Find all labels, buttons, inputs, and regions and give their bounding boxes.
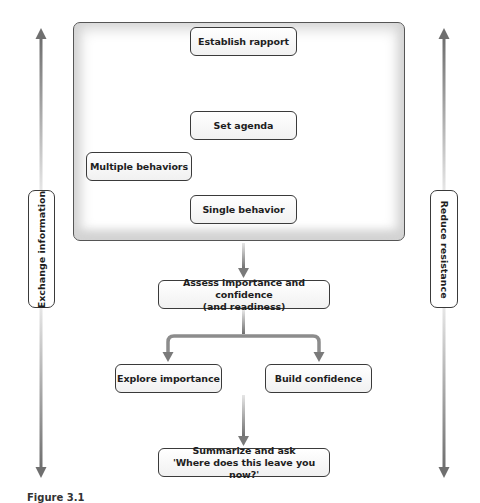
node-label-line2: (and readiness) [203,301,286,313]
node-establish-rapport: Establish rapport [190,27,297,56]
node-set-agenda: Set agenda [190,111,297,140]
node-assess-importance-confidence: Assess importance and confidence (and re… [158,280,330,309]
node-label: Establish rapport [198,36,289,48]
node-label: Build confidence [275,373,362,385]
reduce-resistance-label: Reduce resistance [430,190,458,308]
arrow-fork-icon [163,310,325,362]
exchange-information-text: Exchange information [36,190,47,308]
reduce-resistance-text: Reduce resistance [439,200,450,298]
node-build-confidence: Build confidence [265,364,372,393]
node-label: Single behavior [202,204,284,216]
node-label-line1: Assess importance and confidence [159,277,329,301]
node-label: Explore importance [117,373,220,385]
node-summarize: Summarize and ask 'Where does this leave… [158,448,330,477]
node-explore-importance: Explore importance [115,364,222,393]
node-multiple-behaviors: Multiple behaviors [86,152,192,181]
figure-caption: Figure 3.1 [27,492,84,503]
node-single-behavior: Single behavior [190,195,297,224]
exchange-information-label: Exchange information [28,190,55,308]
node-label-line2: 'Where does this leave you now?' [159,457,329,481]
node-label: Set agenda [214,120,274,132]
node-label: Multiple behaviors [90,161,188,173]
arrow-down-icon [238,243,249,278]
node-label-line1: Summarize and ask [193,445,296,457]
arrow-down-icon [238,395,249,446]
